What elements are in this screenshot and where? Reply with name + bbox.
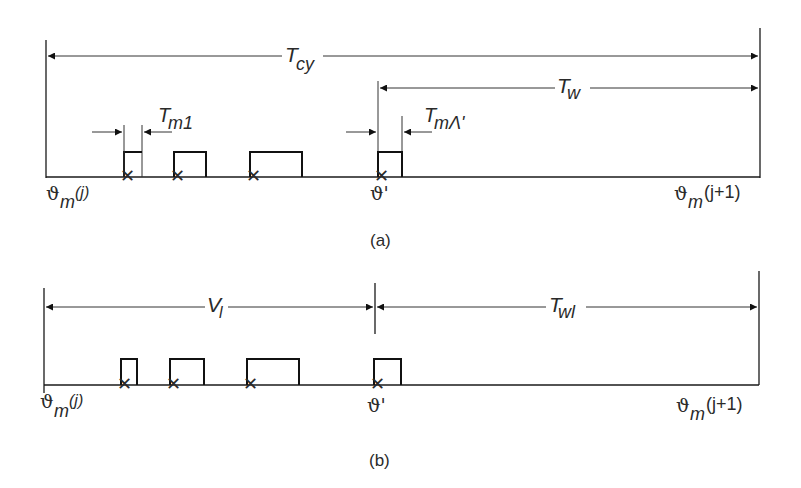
arrival-mark-icon: ✕ [166,374,181,394]
diagram-b: V l T wl ✕ ✕ ✕ ✕ ϑ m [40,271,759,470]
svg-text:(j+1): (j+1) [704,182,741,202]
span-first-job-sub: m1 [168,113,193,133]
span-vacation-sub: l [219,304,223,321]
arrival-mark-icon: ✕ [120,166,135,186]
span-new-job-sub: mΛ' [434,113,465,133]
svg-text:ϑ: ϑ [674,182,688,204]
service-pulse-2: ✕ [170,152,206,186]
start-label: ϑ m (j) [46,182,89,212]
span-vacation: V l [46,293,373,321]
service-pulse-1: ✕ [117,359,137,394]
span-wait-time: T w [380,74,758,103]
diagram-a: T cy T w T m1 ✕ ✕ ✕ [46,28,760,250]
svg-text:m: m [60,192,75,212]
svg-text:ϑ: ϑ [676,394,690,416]
timing-diagram: T cy T w T m1 ✕ ✕ ✕ [0,0,801,488]
arrival-mark-icon: ✕ [246,166,261,186]
end-label: ϑ m (j+1) [676,394,743,424]
service-pulse-new: T mΛ' ✕ [346,81,465,186]
arrival-mark-icon: ✕ [370,374,385,394]
svg-text:m: m [690,404,705,424]
svg-text:(j): (j) [69,392,83,409]
arrival-mark-icon: ✕ [117,374,132,394]
span-wait-time: T wl [377,293,757,322]
svg-text:ϑ: ϑ [46,182,60,204]
service-pulse-3: ✕ [243,359,299,394]
svg-text:(j): (j) [75,184,89,201]
start-label: ϑ m (j) [40,390,83,421]
span-cycle-time: T cy [48,43,758,74]
caption-a: (a) [370,231,391,250]
arrival-label: ϑ' [367,394,386,416]
service-pulse-2: ✕ [166,359,204,394]
span-wait-sub: wl [558,302,576,322]
svg-text:m: m [54,401,69,421]
svg-text:(j+1): (j+1) [706,394,743,414]
arrival-mark-icon: ✕ [243,374,258,394]
arrival-label: ϑ' [370,182,389,204]
span-cycle-sub: cy [296,54,315,74]
span-wait-sub: w [567,83,581,103]
service-pulse-3: ✕ [246,152,302,186]
caption-b: (b) [369,451,390,470]
svg-text:m: m [688,192,703,212]
svg-text:ϑ: ϑ [40,390,54,412]
arrival-mark-icon: ✕ [170,166,185,186]
end-label: ϑ m (j+1) [674,182,741,212]
service-pulse-new: ✕ [370,359,401,394]
